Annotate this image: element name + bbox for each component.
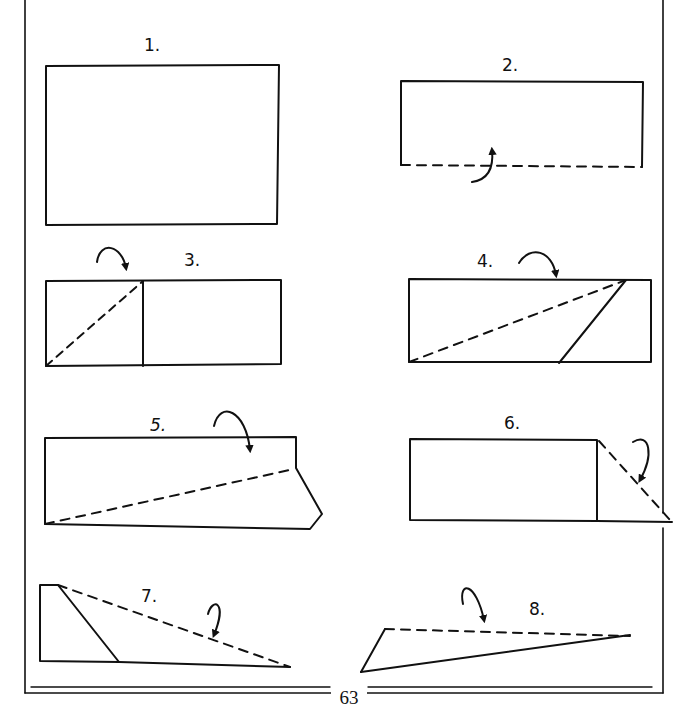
step-2-diagram	[401, 81, 643, 182]
step-4-number: 4.	[477, 253, 493, 270]
fold-down-arrow-icon	[519, 252, 556, 275]
step-1-diagram	[46, 65, 279, 225]
step-4-diagram	[409, 252, 651, 363]
fold-down-arrow-icon	[214, 412, 250, 450]
step-7-diagram	[40, 585, 290, 667]
step-3-diagram	[46, 248, 281, 366]
fold-down-arrow-icon	[462, 588, 484, 620]
step-5-number: 5.	[150, 417, 166, 434]
step-7-number: 7.	[141, 588, 157, 605]
step-6-diagram	[410, 439, 672, 522]
page-border	[25, 0, 663, 693]
step-8-number: 8.	[529, 601, 545, 618]
step-3-number: 3.	[184, 252, 200, 269]
instruction-page: 1. 2. 3. 4. 5. 6. 7. 8. 63	[0, 0, 698, 726]
fold-down-arrow-icon	[633, 440, 648, 480]
step-5-diagram	[45, 412, 322, 529]
fold-down-arrow-icon	[97, 248, 126, 268]
diagram-canvas	[0, 0, 698, 726]
step-6-number: 6.	[504, 415, 520, 432]
step-2-number: 2.	[502, 57, 518, 74]
page-number: 63	[331, 688, 367, 707]
step-1-number: 1.	[144, 37, 160, 54]
step-8-diagram	[361, 588, 630, 672]
fold-down-arrow-icon	[208, 604, 220, 635]
